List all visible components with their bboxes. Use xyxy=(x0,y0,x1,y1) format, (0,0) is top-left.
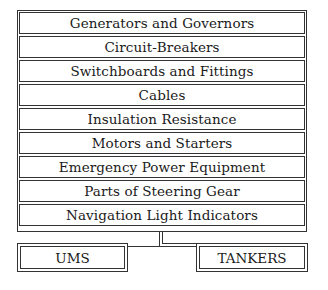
list-item-navigation-lights: Navigation Light Indicators xyxy=(19,204,305,226)
item-label: Circuit-Breakers xyxy=(104,39,219,55)
list-item-generators: Generators and Governors xyxy=(19,12,305,34)
item-label: Switchboards and Fittings xyxy=(70,63,253,79)
branch-box-ums: UMS xyxy=(17,243,128,272)
branch-box-tankers: TANKERS xyxy=(196,243,308,272)
item-label: Navigation Light Indicators xyxy=(66,207,258,223)
list-item-emergency-power: Emergency Power Equipment xyxy=(19,156,305,178)
list-item-circuit-breakers: Circuit-Breakers xyxy=(19,36,305,58)
item-label: Cables xyxy=(139,87,186,103)
branch-box-tankers-inner: TANKERS xyxy=(199,246,305,269)
list-item-motors: Motors and Starters xyxy=(19,132,305,154)
item-label: Insulation Resistance xyxy=(87,111,236,127)
connector-branch-right xyxy=(162,243,196,244)
equipment-list: Generators and Governors Circuit-Breaker… xyxy=(19,12,305,226)
list-item-insulation: Insulation Resistance xyxy=(19,108,305,130)
connector-branch-left xyxy=(128,246,160,247)
connector-branch-right-lower xyxy=(159,246,196,247)
connector-trunk-left xyxy=(159,232,160,246)
branch-label: TANKERS xyxy=(217,250,286,266)
list-item-steering-gear: Parts of Steering Gear xyxy=(19,180,305,202)
item-label: Motors and Starters xyxy=(92,135,233,151)
item-label: Emergency Power Equipment xyxy=(59,159,265,175)
item-label: Parts of Steering Gear xyxy=(84,183,240,199)
item-label: Generators and Governors xyxy=(70,15,254,31)
list-item-switchboards: Switchboards and Fittings xyxy=(19,60,305,82)
list-item-cables: Cables xyxy=(19,84,305,106)
branch-label: UMS xyxy=(55,250,89,266)
branch-box-ums-inner: UMS xyxy=(20,246,125,269)
